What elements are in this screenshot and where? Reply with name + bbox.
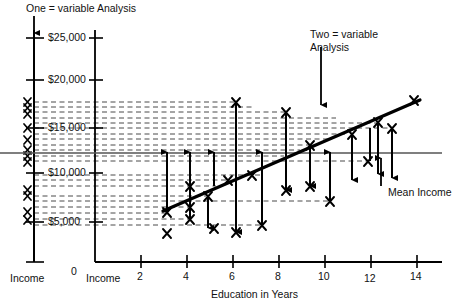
xtick-label-4: 4 <box>183 270 189 282</box>
right-axis-title: Income <box>86 272 120 284</box>
xtick-label-6: 6 <box>229 270 235 282</box>
mean-income-label: Mean Income <box>388 186 452 198</box>
scatter-point <box>364 157 372 166</box>
left-axis-tally-marks <box>24 98 31 224</box>
ytick-label-5000: $5,000 <box>48 215 80 227</box>
chart-canvas <box>0 0 454 304</box>
origin-label: 0 <box>71 265 77 277</box>
xtick-label-2: 2 <box>137 270 143 282</box>
xtick-label-12: 12 <box>364 272 376 284</box>
xtick-label-8: 8 <box>275 270 281 282</box>
annotation-one-label: One = variable Analysis <box>26 2 136 14</box>
ytick-label-20000: $20,000 <box>48 73 86 85</box>
xtick-label-14: 14 <box>410 270 422 282</box>
scatter-axes <box>89 30 442 268</box>
annotation-two-label-line1: Two = variable <box>310 28 378 40</box>
left-income-axis <box>26 30 44 262</box>
xaxis-title: Education in Years <box>211 288 298 300</box>
ytick-label-25000: $25,000 <box>48 31 86 43</box>
xtick-label-10: 10 <box>318 270 330 282</box>
figure-root: One = variable Analysis Two = variable A… <box>0 0 454 304</box>
annotation-two-label-line2: Analysis <box>310 41 349 53</box>
ytick-label-10000: $10,000 <box>48 166 86 178</box>
scatter-point <box>163 229 171 238</box>
deviation-arrows <box>167 102 392 232</box>
ytick-label-15000: $15,000 <box>48 121 86 133</box>
regression-line <box>163 100 420 211</box>
left-axis-title: Income <box>10 272 44 284</box>
